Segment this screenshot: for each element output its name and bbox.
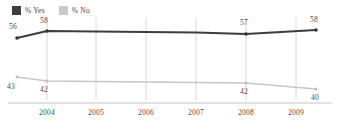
data-label-no: 40 [311,94,319,102]
legend-label-no: % No [72,6,90,15]
series-line-yes [17,30,316,38]
data-point-no [315,88,318,91]
data-label-yes: 58 [40,17,48,25]
legend-item-no[interactable]: % No [59,6,90,15]
data-label-yes: 56 [9,23,17,31]
series-line-no [17,77,316,89]
plot-area: 56 58 57 58 43 42 42 40 [0,18,340,106]
x-tick-2008: 2008 [238,108,254,118]
data-point-no [46,80,49,83]
series-yes [15,28,318,40]
legend-swatch-icon [59,6,68,15]
line-chart: % Yes % No [0,0,340,129]
x-tick-2007: 2007 [188,108,204,118]
data-label-no: 42 [40,86,48,94]
data-label-yes: 58 [310,16,318,24]
data-point-yes [15,36,19,40]
legend-label-yes: % Yes [25,6,45,15]
data-point-yes [45,29,49,33]
data-point-no [245,82,248,85]
data-point-no [16,76,19,79]
legend-item-yes[interactable]: % Yes [12,6,45,15]
x-tick-2006: 2006 [138,108,154,118]
data-label-no: 43 [7,83,15,91]
plot-svg [0,18,340,106]
x-tick-2004: 2004 [39,108,55,118]
data-point-yes [314,28,318,32]
gridlines-vertical [47,18,296,100]
data-label-no: 42 [240,88,248,96]
data-point-yes [244,32,248,36]
x-tick-2009: 2009 [288,108,304,118]
x-tick-2005: 2005 [88,108,104,118]
series-no [16,76,318,91]
data-label-yes: 57 [240,19,248,27]
x-axis-labels: 2004 2005 2006 2007 2008 2009 [0,108,340,122]
legend-swatch-icon [12,6,21,15]
chart-legend: % Yes % No [12,3,90,17]
